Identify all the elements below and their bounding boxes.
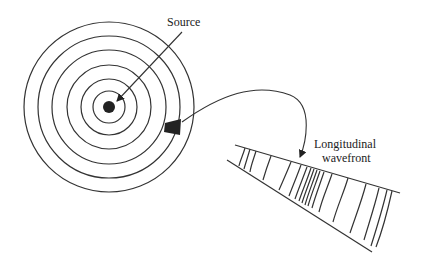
wedge-bottom-edge — [227, 160, 372, 252]
wave-diagram: Source Longitudinal wavefront — [0, 0, 422, 268]
magnify-arrow — [182, 90, 306, 157]
wavefront-label-line2: wavefront — [322, 151, 371, 165]
wavefront-label-line1: Longitudinal — [314, 137, 377, 151]
source-dot — [103, 101, 115, 113]
source-arrow — [117, 32, 182, 101]
wedge-top-edge — [235, 145, 400, 193]
wavefront-segment-highlight — [164, 119, 181, 135]
longitudinal-wavefront-wedge — [227, 145, 400, 252]
source-label: Source — [167, 15, 200, 29]
